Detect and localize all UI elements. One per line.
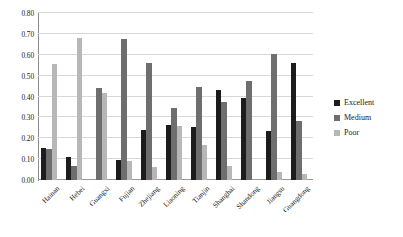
x-axis-tick-label: Hebei xyxy=(37,184,86,233)
x-axis-tick-label: Hainan xyxy=(12,184,61,233)
legend-label: Poor xyxy=(344,129,359,137)
x-axis-tick-label: Jiangsu xyxy=(237,184,286,233)
legend-swatch-icon xyxy=(334,130,340,136)
legend-label: Medium xyxy=(344,114,371,122)
legend-item: Poor xyxy=(334,125,374,140)
legend-swatch-icon xyxy=(334,100,340,106)
x-axis-tick-label: Liaoning xyxy=(137,184,186,233)
legend-item: Medium xyxy=(334,110,374,125)
legend-label: Excellent xyxy=(344,99,374,107)
x-axis-tick-label: Guangdong xyxy=(262,184,311,233)
chart-figure: 0.800.700.600.500.400.300.200.100.00 Hai… xyxy=(0,0,403,237)
x-axis-tick-label: Shandong xyxy=(212,184,261,233)
x-axis-tick-label: Tianjin xyxy=(162,184,211,233)
x-axis-tick-label: Zhejiang xyxy=(112,184,161,233)
x-axis-tick-label: Fujian xyxy=(87,184,136,233)
x-axis-tick-label: Shanghai xyxy=(187,184,236,233)
legend-item: Excellent xyxy=(334,95,374,110)
x-axis-tick-label: Guangxi xyxy=(62,184,111,233)
chart-legend: ExcellentMediumPoor xyxy=(334,95,374,140)
legend-swatch-icon xyxy=(334,115,340,121)
